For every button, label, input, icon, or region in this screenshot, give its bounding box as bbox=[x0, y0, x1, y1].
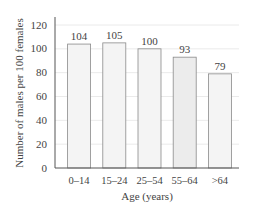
y-tick-label: 80 bbox=[36, 66, 48, 78]
x-axis-labels: 0–1415–2425–5455–64>64 bbox=[69, 175, 229, 186]
bars: 1041051009379 bbox=[68, 29, 232, 168]
bar bbox=[68, 44, 91, 168]
y-tick-label: 60 bbox=[36, 90, 48, 102]
x-tick-label: 55–64 bbox=[172, 175, 199, 186]
y-tick-label: 20 bbox=[36, 138, 48, 150]
bar-value-label: 93 bbox=[179, 43, 191, 55]
bar bbox=[138, 49, 161, 168]
bar bbox=[208, 74, 231, 168]
bar-chart: 020406080100120 1041051009379 0–1415–242… bbox=[0, 0, 253, 215]
bar-value-label: 100 bbox=[141, 35, 158, 47]
x-tick-label: 0–14 bbox=[69, 175, 91, 186]
y-axis-ticks: 020406080100120 bbox=[31, 19, 48, 174]
y-tick-label: 40 bbox=[36, 114, 48, 126]
bar bbox=[173, 57, 196, 168]
x-tick-label: 25–54 bbox=[136, 175, 163, 186]
bar-value-label: 105 bbox=[106, 29, 123, 41]
y-tick-label: 100 bbox=[31, 42, 48, 54]
y-axis-title: Number of males per 100 females bbox=[13, 18, 25, 167]
bar-value-label: 79 bbox=[214, 60, 226, 72]
y-tick-label: 0 bbox=[42, 162, 48, 174]
bar-value-label: 104 bbox=[71, 30, 88, 42]
bar bbox=[103, 43, 126, 168]
x-axis-title: Age (years) bbox=[121, 190, 173, 203]
x-tick-label: >64 bbox=[212, 175, 229, 186]
x-tick-label: 15–24 bbox=[101, 175, 128, 186]
y-tick-label: 120 bbox=[31, 19, 48, 31]
